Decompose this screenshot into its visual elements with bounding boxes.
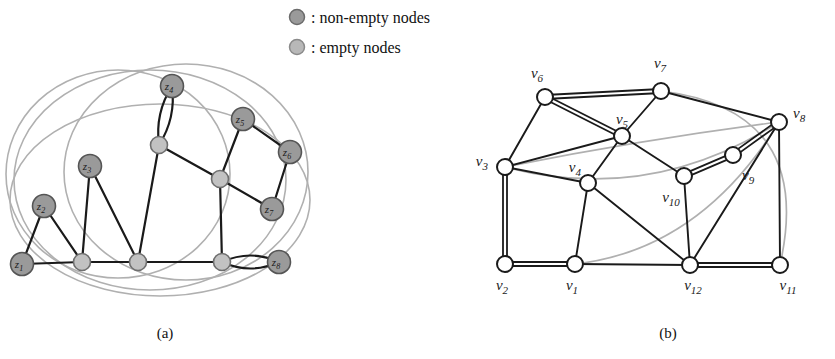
vertex-circle xyxy=(567,256,583,272)
filled-circle-light-icon xyxy=(290,40,305,55)
node-label-subscript: 2 xyxy=(41,206,45,215)
graph-a-node-z6: z6 xyxy=(279,141,302,164)
empty-node-circle xyxy=(130,254,147,271)
node-label-subscript: 5 xyxy=(240,119,244,128)
vertex-label-subscript: 7 xyxy=(661,62,667,74)
vertex-circle xyxy=(497,256,513,272)
empty-node-circle xyxy=(214,254,231,271)
graph-a-node-e4 xyxy=(212,171,229,188)
caption-b: (b) xyxy=(659,325,677,342)
figure-container: z1z2z3z4z5z6z7z8 v1v2v3v4v5v6v7v8v9v10v1… xyxy=(0,0,835,359)
graph-edge xyxy=(575,264,690,265)
figure-svg: z1z2z3z4z5z6z7z8 v1v2v3v4v5v6v7v8v9v10v1… xyxy=(0,0,835,359)
vertex-label-subscript: 10 xyxy=(669,196,681,208)
graph-a-node-z3: z3 xyxy=(79,155,102,178)
node-label-subscript: 1 xyxy=(19,264,23,273)
vertex-label-subscript: 9 xyxy=(749,174,755,186)
graph-edge xyxy=(779,122,780,265)
vertex-circle xyxy=(725,147,741,163)
vertex-circle xyxy=(772,257,788,273)
figure-background xyxy=(0,0,835,359)
vertex-label-subscript: 11 xyxy=(786,284,796,296)
legend-label: : non-empty nodes xyxy=(311,9,430,27)
graph-a-node-z8: z8 xyxy=(268,251,291,274)
vertex-label-subscript: 2 xyxy=(503,284,509,296)
node-label-subscript: 4 xyxy=(169,86,173,95)
vertex-circle xyxy=(580,175,596,191)
vertex-circle xyxy=(676,168,692,184)
vertex-label-subscript: 1 xyxy=(573,284,579,296)
empty-node-circle xyxy=(212,171,229,188)
vertex-label-subscript: 5 xyxy=(623,118,629,130)
vertex-label-subscript: 4 xyxy=(576,166,582,178)
graph-a-node-e3 xyxy=(151,137,168,154)
node-label-subscript: 8 xyxy=(276,262,280,271)
vertex-circle xyxy=(497,159,513,175)
legend-label: : empty nodes xyxy=(311,39,401,57)
vertex-circle xyxy=(653,83,669,99)
graph-a-node-z7: z7 xyxy=(261,198,284,221)
vertex-circle xyxy=(537,89,553,105)
graph-a-node-z4: z4 xyxy=(161,75,184,98)
node-label-subscript: 3 xyxy=(86,166,91,175)
vertex-circle xyxy=(614,128,630,144)
vertex-circle xyxy=(682,257,698,273)
graph-a-node-z2: z2 xyxy=(33,195,56,218)
graph-a-node-e1 xyxy=(74,254,91,271)
filled-circle-dark-icon xyxy=(290,10,305,25)
legend-item-0: : non-empty nodes xyxy=(290,9,431,27)
empty-node-circle xyxy=(151,137,168,154)
graph-a-node-z5: z5 xyxy=(232,108,255,131)
vertex-circle xyxy=(771,114,787,130)
caption-a: (a) xyxy=(157,325,174,342)
graph-a-node-e2 xyxy=(130,254,147,271)
graph-a-node-e5 xyxy=(214,254,231,271)
node-label-subscript: 6 xyxy=(287,152,291,161)
vertex-label-subscript: 3 xyxy=(482,160,489,172)
empty-node-circle xyxy=(74,254,91,271)
graph-a-node-z1: z1 xyxy=(11,253,34,276)
vertex-label-subscript: 8 xyxy=(800,112,806,124)
vertex-label-subscript: 12 xyxy=(691,284,703,296)
vertex-label-subscript: 6 xyxy=(538,72,544,84)
